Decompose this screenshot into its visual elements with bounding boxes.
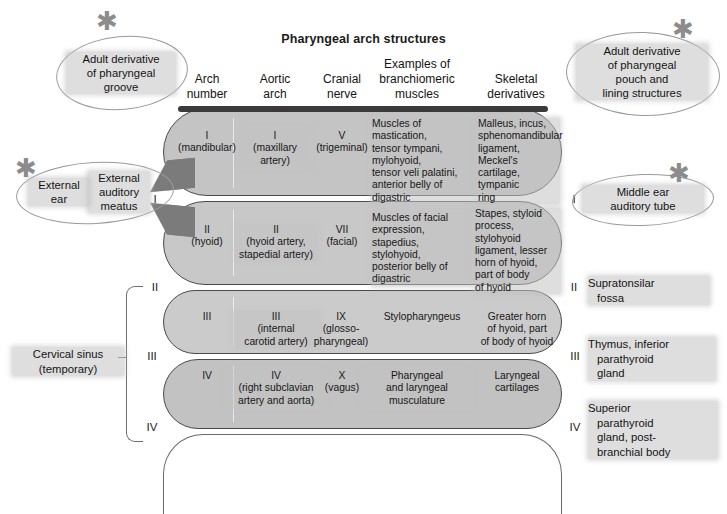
label-line-3: gland, post- [588,430,718,445]
callout-label-pharyngeal-pouch: Adult derivative of pharyngeal pouch and… [576,44,708,100]
cell-arch4-skeletal: Laryngeal cartilages [471,370,563,395]
col-line-3: muscles [362,87,472,102]
label-line-3: gland [588,366,716,381]
arch-numeral-right-4: IV [563,421,587,433]
cell-arch1-cranial-nerve: V (trigeminal) [306,130,378,155]
arch-bar-5-partial [163,434,562,514]
cell-arch2-skeletal: Stapes, styloid process, stylohyoid liga… [475,208,561,294]
label-line-2: parathyroid [588,416,718,431]
label-line-2: fossa [588,291,710,306]
arch-numeral-right-2: II [562,281,586,293]
cell-arch2-aortic-arch: II (hyoid artery, stapedial artery) [236,224,316,261]
column-header-branchiomeric-muscles: Examples of branchiomeric muscles [362,57,472,102]
cell-arch2-muscles: Muscles of facial expression, stapedius,… [372,212,472,286]
label-line-2: parathyroid [588,352,716,367]
arch-1-top-bar [178,106,548,112]
col-line-2: arch [239,87,311,102]
cell-arch3-muscles: Stylopharyngeus [368,311,476,323]
arch-numeral-right-3: III [563,350,587,362]
asterisk-icon: ✱ [15,155,37,181]
arch-numeral-left-2: II [143,281,167,293]
label-line-1: Superior [588,402,631,414]
cell-arch1-arch-number: I (mandibular) [172,130,242,155]
asterisk-icon: ✱ [96,8,118,34]
cell-arch3-skeletal: Greater horn of hyoid, part of body of h… [471,311,563,348]
label-line-1: Supratonsilar [588,277,655,289]
callout-label-external-auditory-meatus: External auditory meatus [88,171,150,213]
col-line-1: Skeletal [466,72,566,87]
cell-arch1-aortic-arch: I (maxillary artery) [240,130,310,167]
label-thymus-inferior-parathyroid: Thymus, inferior parathyroid gland [588,337,716,381]
cell-arch2-cranial-nerve: VII (facial) [306,224,378,249]
column-header-aortic-arch: Aortic arch [239,72,311,102]
label-superior-parathyroid: Superior parathyroid gland, post- branch… [588,401,718,459]
col-line-1: Examples of [362,57,472,72]
asterisk-icon: ✱ [668,160,690,186]
label-supratonsilar-fossa: Supratonsilar fossa [588,276,710,305]
arch-numeral-left-3: III [140,350,164,362]
callout-label-external-ear: External ear [28,178,90,206]
col-line-1: Aortic [239,72,311,87]
cell-arch1-skeletal: Malleus, incus, sphenomandibular ligamen… [478,118,560,204]
cell-arch2-arch-number: II (hyoid) [172,224,242,249]
cell-arch1-muscles: Muscles of mastication, tensor tympani, … [372,118,476,204]
cell-arch3-cranial-nerve: IX (glosso- pharyngeal) [304,311,378,348]
label-line-4: branchial body [588,445,718,460]
col-line-2: branchiomeric [362,72,472,87]
column-header-skeletal-derivatives: Skeletal derivatives [466,72,566,102]
col-line-2: number [172,87,242,102]
label-line-1: Thymus, inferior [588,338,669,350]
callout-label-middle-ear: Middle ear auditory tube [582,185,704,213]
arch-numeral-left-4: IV [140,421,164,433]
col-line-2: derivatives [466,87,566,102]
callout-label-pharyngeal-groove: Adult derivative of pharyngeal groove [66,52,176,94]
cervical-sinus-brace [126,286,143,442]
cell-arch4-muscles: Pharyngeal and laryngeal musculature [364,370,470,407]
asterisk-icon: ✱ [672,16,694,42]
label-cervical-sinus: Cervical sinus (temporary) [12,347,124,376]
